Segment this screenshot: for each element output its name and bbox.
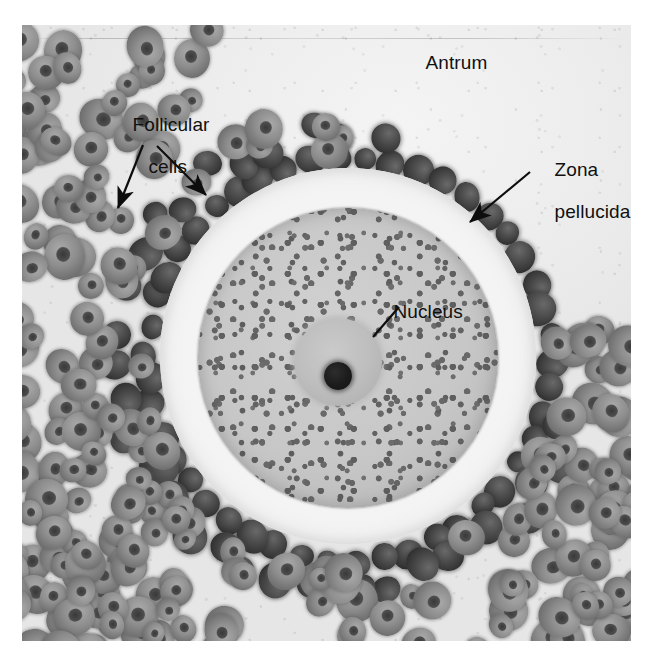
- label-antrum-text: Antrum: [425, 52, 487, 73]
- corona-cell: [370, 543, 398, 571]
- micrograph-figure: Antrum Follicular cells Zona pellucida N…: [0, 0, 659, 660]
- granulosa-cell: [60, 368, 97, 402]
- label-nucleus-text: Nucleus: [394, 301, 463, 322]
- label-nucleus: Nucleus: [372, 280, 463, 343]
- granulosa-cell: [22, 375, 40, 410]
- label-antrum: Antrum: [405, 31, 487, 94]
- label-zona-pellucida-line2: pellucida: [555, 201, 631, 222]
- label-follicular-cells-line1: Follicular: [133, 114, 210, 135]
- oocyte-nucleolus: [324, 362, 352, 390]
- label-follicular-cells: Follicular cells: [111, 93, 203, 198]
- granulosa-cell: [406, 574, 459, 627]
- label-zona-pellucida-line1: Zona: [555, 159, 599, 180]
- granulosa-cell: [461, 632, 494, 641]
- label-follicular-cells-line2: cells: [149, 156, 188, 177]
- label-zona-pellucida: Zona pellucida: [533, 138, 630, 243]
